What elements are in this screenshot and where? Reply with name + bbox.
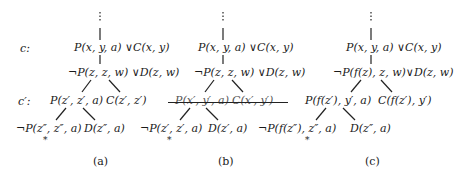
- level2-right-node-struck: C(x′, y′): [232, 95, 273, 107]
- level2-left-node-struck: P(x′, y′, a): [175, 95, 229, 107]
- selected-marker: *: [167, 135, 172, 145]
- row-label-c-prime: c′:: [18, 95, 30, 108]
- selected-marker: *: [305, 135, 310, 145]
- level3-right-node: D(z″, a): [350, 123, 391, 135]
- level3-left-node: ¬P(z″, z″, a): [16, 123, 82, 135]
- child-node: ¬P(f(z), z, w)∨D(z, w): [333, 67, 454, 79]
- level3-left-node: ¬P(f(z″), z″, a): [258, 123, 336, 135]
- level2-right-node: C(f(z′), y′): [378, 95, 432, 107]
- selected-marker: *: [43, 135, 48, 145]
- child-node: ¬P(z, z, w) ∨D(z, w): [194, 67, 305, 79]
- level2-left-node: P(f(z′), y′, a): [305, 95, 371, 107]
- tree-edges: [0, 0, 458, 175]
- root-node: P(x, y, a) ∨C(x, y): [74, 42, 169, 54]
- level3-right-node: D(z′, a): [208, 123, 247, 135]
- root-node: P(x, y, a) ∨C(x, y): [346, 42, 441, 54]
- caption-b: (b): [218, 155, 234, 168]
- caption-a: (a): [93, 155, 108, 168]
- child-node: ¬P(z, z, w) ∨D(z, w): [68, 67, 179, 79]
- row-label-c: c:: [20, 42, 30, 55]
- level3-left-node: ¬P(z′, z′, a): [140, 123, 202, 135]
- root-node: P(x, y, a) ∨C(x, y): [198, 42, 293, 54]
- caption-c: (c): [365, 155, 380, 168]
- level2-left-node: P(z′, z′, a): [50, 95, 103, 107]
- level2-right-node: C(z′, z′): [106, 95, 147, 107]
- level3-right-node: D(z″, a): [84, 123, 125, 135]
- strikethrough-line: [168, 102, 288, 103]
